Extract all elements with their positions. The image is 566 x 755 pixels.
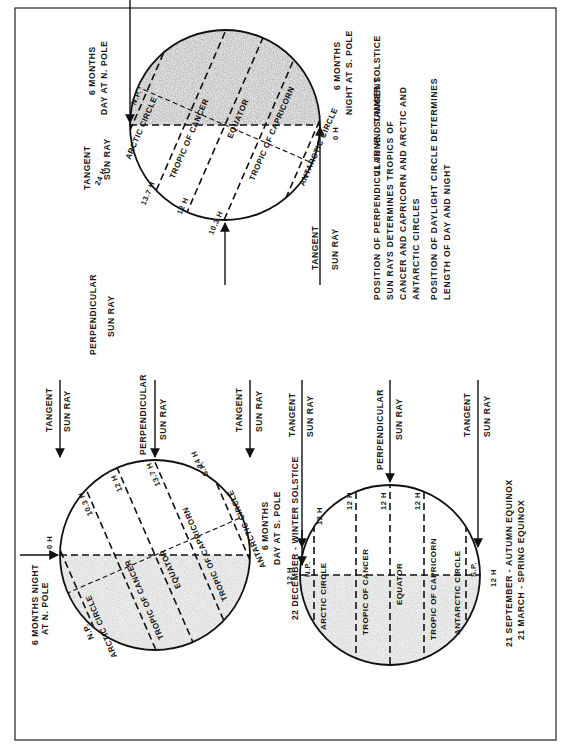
day-length-cancer: 13.7 H [139,180,157,207]
day-length-capricorn: 12 H [413,492,422,510]
tangent-ray-bottom-label2: SUN RAY [482,395,492,437]
tangent-ray-bottom-label2: SUN RAY [330,228,340,270]
day-length-cancer: 12 H [345,492,354,510]
explanation-line-1: POSITION OF PERPENDICULAR AND TANGENT [372,77,382,300]
south-pole-label2: NIGHT AT S. POLE [344,30,354,115]
explanation-line-6: LENGTH OF DAY AND NIGHT [442,164,452,300]
day-length-sp: 0 H [331,127,340,140]
perpendicular-ray-label2: SUN RAY [158,398,168,440]
explanation-line-4: ANTARCTIC CIRCLES [411,198,421,300]
explanation-text: POSITION OF PERPENDICULAR AND TANGENT SU… [372,77,452,300]
arctic-circle-label: ARCTIC CIRCLE [319,562,328,630]
summer-solstice-panel: TANGENT SUN RAY PERPENDICULAR SUN RAY TA… [81,0,382,355]
tangent-ray-bottom-label1: TANGENT [462,392,472,437]
perpendicular-ray-label1: PERPENDICULAR [88,274,98,355]
equator-label: EQUATOR [395,563,404,605]
equinox-panel: TANGENT SUN RAY PERPENDICULAR SUN RAY TA… [285,380,526,675]
winter-solstice-panel: TANGENT SUN RAY PERPENDICULAR SUN RAY TA… [11,374,300,707]
equinox-caption-1: 21 SEPTEMBER - AUTUMN EQUINOX [504,479,514,647]
night-shading [130,30,320,125]
explanation-line-3: CANCER AND CAPRICORN AND ARCTIC AND [398,86,408,300]
sp-label: S.P. [469,562,478,577]
tropic-capricorn-label: TROPIC OF CAPRICORN [429,538,438,640]
north-pole-label1: 6 MONTHS [87,46,97,95]
np-label: N.P. [303,561,312,577]
day-length-equator: 12 H [109,473,124,493]
tangent-ray-top-label2: SUN RAY [62,390,72,432]
south-pole-label2: DAY AT S. POLE [272,491,282,565]
winter-solstice-caption: 22 DECEMBER - WINTER SOLSTICE [290,456,300,620]
day-length-np: 12 H [285,567,294,585]
tangent-ray-bottom-label1: TANGENT [234,387,244,432]
day-length-capricorn: 10.3 H [207,210,225,237]
figure-stage: TANGENT SUN RAY PERPENDICULAR SUN RAY TA… [0,0,566,755]
tropic-cancer-label: TROPIC OF CANCER [361,549,370,635]
north-pole-label2: AT N. POLE [40,582,50,635]
tangent-ray-bottom-label1: TANGENT [310,225,320,270]
tangent-ray-bottom-label2: SUN RAY [254,390,264,432]
tangent-ray-top-label1: TANGENT [82,145,92,190]
antarctic-circle-label: ANTARCTIC CIRCLE [453,550,462,635]
equinox-caption-2: 21 MARCH - SPRING EQUINOX [516,500,526,640]
day-length-equator: 12 H [379,492,388,510]
north-pole-label1: 6 MONTHS NIGHT [30,564,40,645]
explanation-line-2: SUN RAYS DETERMINES TROPICS OF [385,120,395,300]
day-length-sp: 12 H [489,569,498,587]
explanation-line-5: POSITION OF DAYLIGHT CIRCLE DETERMINES [429,78,439,300]
south-pole-label1: 6 MONTHS [260,501,270,550]
perpendicular-ray-label2: SUN RAY [394,398,404,440]
solstice-equinox-diagram: TANGENT SUN RAY PERPENDICULAR SUN RAY TA… [0,0,566,755]
north-pole-label2: DAY AT N. POLE [99,40,109,115]
perpendicular-ray-label1: PERPENDICULAR [375,389,385,470]
south-pole-label1: 6 MONTHS [332,41,342,90]
tangent-ray-top-label1: TANGENT [287,392,297,437]
day-length-np: 0 H [45,536,54,549]
day-length-arctic: 12 H [315,507,324,525]
perpendicular-ray-label1: PERPENDICULAR [138,374,148,455]
tangent-ray-top-label2: SUN RAY [305,395,315,437]
perpendicular-ray-label2: SUN RAY [106,295,116,337]
tangent-ray-top-label1: TANGENT [44,387,54,432]
